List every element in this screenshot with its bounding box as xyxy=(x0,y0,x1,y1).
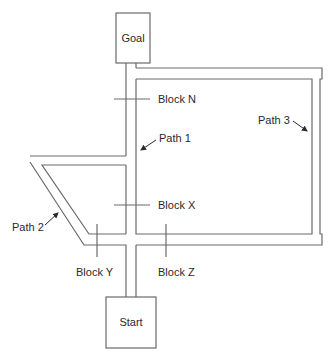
maze-diagram: Goal Start Block N Block X Block Y Block… xyxy=(0,0,336,361)
start-label: Start xyxy=(119,316,142,328)
path2-label: Path 2 xyxy=(12,221,44,233)
block-n-label: Block N xyxy=(158,93,196,105)
path1-label: Path 1 xyxy=(159,132,191,144)
path3-label: Path 3 xyxy=(258,114,290,126)
block-y-label: Block Y xyxy=(76,266,114,278)
path2-arrow-icon xyxy=(45,213,58,225)
block-z-label: Block Z xyxy=(158,266,195,278)
path1-arrow-icon xyxy=(141,140,156,150)
block-x-label: Block X xyxy=(158,199,196,211)
goal-label: Goal xyxy=(121,32,144,44)
path3-arrow-icon xyxy=(293,121,307,131)
